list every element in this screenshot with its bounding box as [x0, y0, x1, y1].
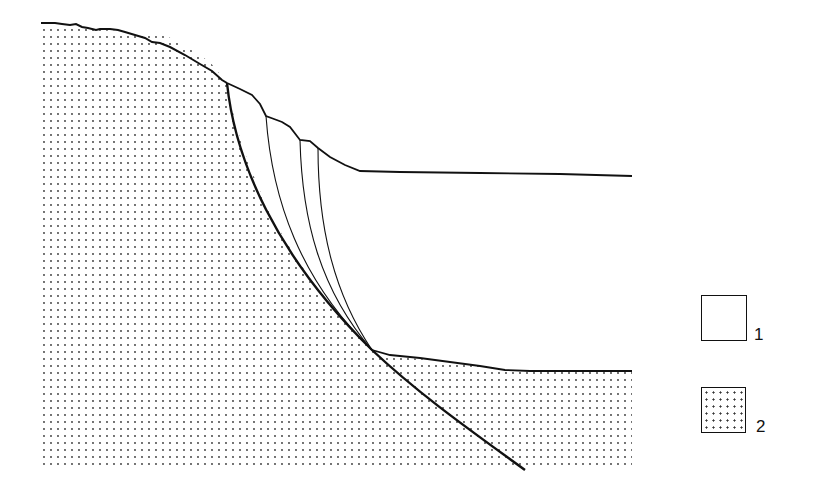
legend-label-unit-2: 2: [756, 418, 765, 435]
legend-swatch-unit-1: [701, 295, 747, 341]
bedrock-unit-2: [41, 23, 632, 470]
slumped-block-surface: [227, 83, 632, 176]
legend-swatch-unit-2: [701, 387, 746, 433]
legend-label-unit-1: 1: [754, 326, 763, 343]
slump-cross-section: [0, 0, 818, 492]
